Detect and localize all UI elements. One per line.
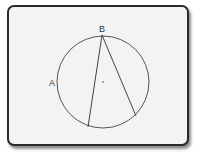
point-label-a: A — [49, 78, 55, 88]
point-label-b: B — [99, 24, 105, 34]
chord-b-to-right — [102, 35, 136, 116]
center-point — [102, 81, 104, 83]
chord-b-to-bottom — [88, 35, 102, 127]
circle-diagram: A B — [0, 0, 198, 156]
